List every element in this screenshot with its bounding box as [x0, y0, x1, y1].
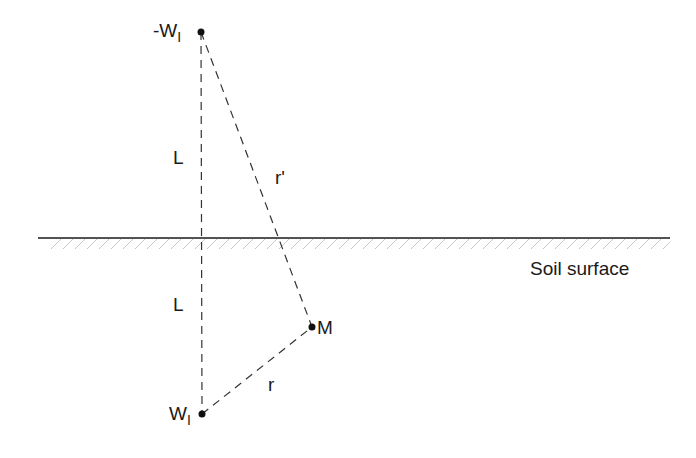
point-m: [309, 324, 316, 331]
point-m-label: M: [317, 318, 333, 337]
image-well-subscript: I: [177, 29, 181, 45]
real-well-label: WI: [169, 404, 191, 423]
vertical-axis-dashed: [201, 32, 202, 414]
image-well-label: -WI: [153, 21, 181, 40]
real-well-text: W: [169, 403, 187, 424]
lower-distance-label: L: [173, 295, 184, 314]
image-well-text: -W: [153, 20, 177, 41]
real-well-subscript: I: [187, 412, 191, 428]
upper-distance-label: L: [173, 148, 184, 167]
diagram-canvas: [0, 0, 696, 458]
line-r: [202, 327, 312, 414]
soil-hatching: [50, 239, 670, 249]
real-well-point: [199, 411, 206, 418]
distance-real-label: r: [268, 375, 274, 394]
image-well-point: [198, 29, 205, 36]
line-r-prime: [201, 32, 312, 327]
distance-image-label: r': [275, 168, 285, 187]
soil-surface-label: Soil surface: [530, 259, 629, 278]
